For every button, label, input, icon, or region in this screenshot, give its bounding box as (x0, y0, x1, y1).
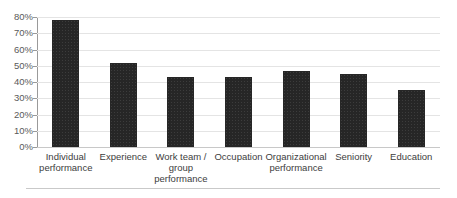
bar (52, 20, 79, 147)
y-axis-tick-label: 60% (14, 45, 33, 54)
bar (110, 63, 137, 148)
x-axis-category-label: Occupation (207, 151, 271, 162)
plot-area (37, 17, 440, 147)
bar-chart: 80%70%60%50%40%30%20%10%0% Individual pe… (0, 0, 457, 198)
y-axis-tick-label: 20% (14, 110, 33, 119)
y-axis-tick-label: 10% (14, 126, 33, 135)
y-axis-tick-label: 70% (14, 28, 33, 37)
x-axis-category-label: Individual performance (34, 151, 98, 173)
y-axis-tick-label: 0% (19, 142, 33, 151)
y-axis-tick-label: 40% (14, 77, 33, 86)
y-axis-tick-label: 30% (14, 93, 33, 102)
bar (225, 77, 252, 147)
y-axis-tick-label: 50% (14, 61, 33, 70)
x-axis-category-label: Seniority (322, 151, 386, 162)
bottom-divider (26, 188, 440, 189)
bar (283, 71, 310, 147)
bar (398, 90, 425, 147)
x-axis-category-label: Education (379, 151, 443, 162)
gridline (37, 147, 440, 148)
x-axis-category-label: Experience (92, 151, 156, 162)
bar (167, 77, 194, 147)
y-axis-tick-label: 80% (14, 12, 33, 21)
x-axis-category-label: Work team / group performance (149, 151, 213, 184)
x-axis-category-label: Organizational performance (264, 151, 328, 173)
bar (340, 74, 367, 147)
y-axis-tick (33, 147, 37, 148)
